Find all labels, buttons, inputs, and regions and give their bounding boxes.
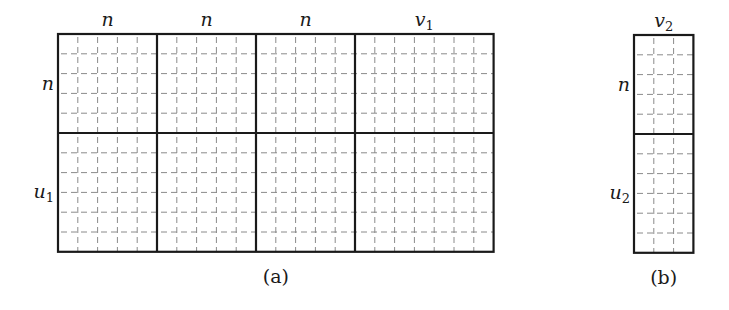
row-block-label: n	[618, 73, 630, 95]
row-block-label: n	[42, 72, 54, 94]
column-block-label: v2	[654, 9, 673, 34]
panel-b: v2nu2(b)	[609, 9, 693, 288]
minor-grid	[58, 34, 494, 252]
panel-caption: (b)	[650, 266, 677, 288]
block-borders	[634, 35, 693, 253]
panel-a: nnnv1nu1(a)	[33, 8, 493, 287]
panel-caption: (a)	[263, 265, 289, 287]
column-block-label: n	[200, 8, 212, 30]
column-block-label: v1	[415, 8, 434, 33]
row-block-label: u1	[33, 180, 54, 205]
minor-grid	[634, 35, 693, 253]
block-matrix-figure: nnnv1nu1(a)v2nu2(b)	[0, 0, 729, 310]
column-block-label: n	[299, 8, 311, 30]
row-block-label: u2	[609, 181, 630, 206]
column-block-label: n	[101, 8, 113, 30]
